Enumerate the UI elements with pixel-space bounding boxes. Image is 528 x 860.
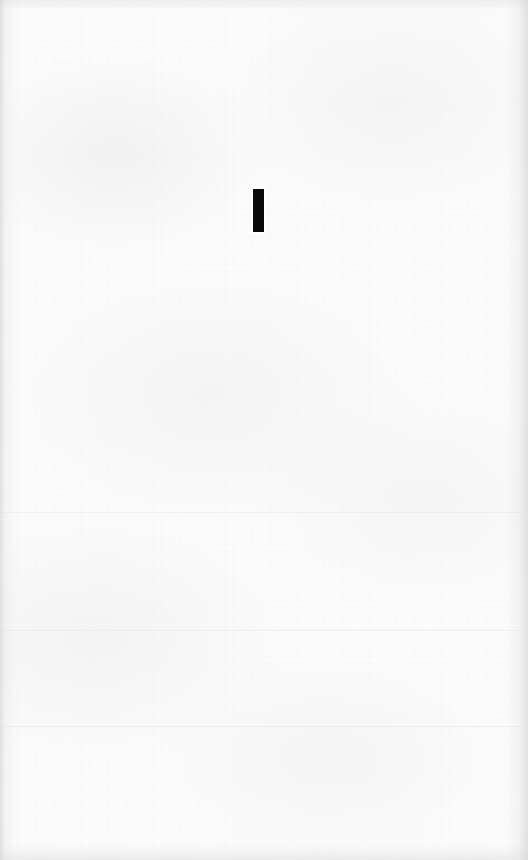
vertical-bar-glyph: I [253,189,264,232]
scan-band [0,512,528,513]
scan-band [0,726,528,727]
scan-band [0,630,528,631]
scanned-page: I [0,0,528,860]
